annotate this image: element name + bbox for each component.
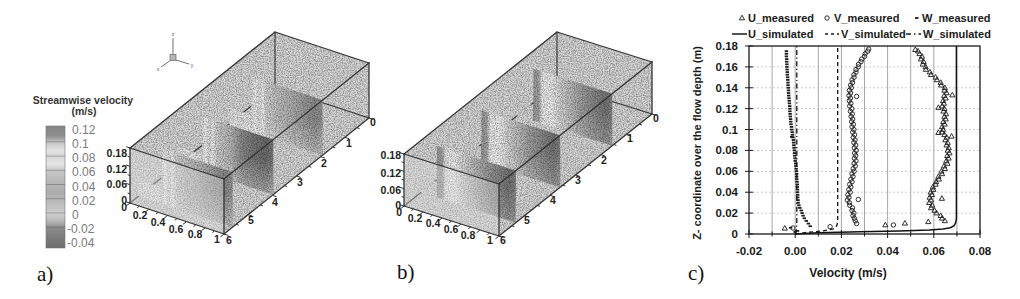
- z-tick-label: 0.06: [381, 184, 402, 196]
- data-point-circle: [854, 221, 858, 225]
- colorbar-tick-label: -0.04: [67, 236, 95, 250]
- data-point-triangle: [926, 219, 931, 224]
- legend-item-w-measured: W_measured: [915, 12, 990, 24]
- legend-label: W_simulated: [923, 28, 991, 40]
- axis-tick: [495, 236, 499, 239]
- z-axis-labels: 0.18 0.12 0.06 0: [107, 147, 128, 206]
- x-tick-label: -0.02: [736, 245, 762, 257]
- axis-tick: [588, 165, 591, 166]
- panel-a: Streamwise velocity (m/s) 0.12 0.1 0.08 …: [33, 31, 376, 286]
- triad-x-label: x: [157, 66, 160, 72]
- data-point-circle: [853, 219, 857, 223]
- y-tick-label: 4: [272, 196, 278, 208]
- y-tick-label: 3: [575, 174, 581, 186]
- scatter-w-measured: [785, 51, 812, 232]
- y-axis-title: Z- coordinate over the flow depth (m): [691, 46, 703, 240]
- chart-series: [782, 46, 956, 234]
- axis-tick: [563, 185, 566, 186]
- x-tick-label: 0.8: [188, 228, 203, 240]
- scatter-v-measured: [791, 47, 896, 230]
- y-tick-label: 0.06: [716, 165, 738, 177]
- data-point-triangle: [939, 196, 944, 201]
- legend-item-w-simulated: W_simulated: [906, 28, 991, 40]
- circle-marker-icon: [825, 16, 829, 20]
- data-point-triangle: [913, 47, 918, 52]
- x-tick-label: 0.08: [969, 245, 992, 257]
- z-tick-label: 0.18: [107, 147, 128, 159]
- x-tick-label: 1: [487, 234, 493, 246]
- axis-tick: [194, 225, 196, 227]
- y-tick-label: 0.04: [716, 186, 739, 198]
- y-tick-label: 0.12: [716, 103, 738, 115]
- colorbar-unit: (m/s): [71, 105, 96, 117]
- axis-tick: [156, 212, 158, 214]
- legend-label: U_measured: [748, 12, 814, 24]
- panel-b: 0.18 0.12 0.06 0 0 0.2 0.4 0.6 0.8 1 0 1…: [381, 32, 660, 284]
- x-tick-label: 0.4: [151, 216, 166, 228]
- x-tick-label: 1: [214, 233, 220, 245]
- axis-tick: [220, 234, 224, 237]
- line-v-simulated: [795, 46, 838, 234]
- axis-tick: [137, 206, 139, 208]
- x-tick-label: 0.6: [444, 223, 459, 235]
- data-point-circle: [891, 223, 895, 227]
- z-tick-label: 0.06: [107, 178, 128, 190]
- data-point-circle: [854, 94, 858, 98]
- box-3d-b: 0.18 0.12 0.06 0 0 0.2 0.4 0.6 0.8 1 0 1…: [381, 32, 660, 246]
- colorbar-tick-label: 0.12: [72, 123, 96, 137]
- x-tick-label: 0.4: [426, 217, 441, 229]
- colorbar: [46, 126, 65, 248]
- axis-tick: [639, 124, 642, 125]
- z-axis-labels: 0.18 0.12 0.06 0: [381, 149, 402, 211]
- data-point-circle: [828, 225, 832, 229]
- colorbar-tick-label: 0.04: [72, 180, 96, 194]
- y-tick-label: 0.14: [716, 82, 739, 94]
- triad-y-label: y: [191, 62, 194, 68]
- y-tick-label: 3: [297, 176, 303, 188]
- data-point-triangle: [883, 222, 888, 227]
- chart-gridlines: [749, 46, 980, 234]
- axis-tick: [284, 186, 287, 187]
- y-tick-label: 0: [370, 116, 376, 128]
- y-tick-label: 6: [226, 234, 232, 246]
- z-tick-label: 0.12: [107, 163, 128, 175]
- colorbar-tick-label: 0.08: [72, 151, 96, 165]
- axis-tick: [175, 219, 177, 221]
- data-point-circle: [856, 197, 860, 201]
- panel-label-a: a): [37, 262, 53, 286]
- y-tick-label: 0.16: [716, 61, 738, 73]
- data-point-triangle: [782, 226, 787, 231]
- legend-item-v-simulated: V_simulated: [825, 28, 906, 40]
- z-tick-label: 0.12: [381, 167, 402, 179]
- colorbar-tick-label: 0: [72, 208, 79, 222]
- axis-tick: [260, 205, 263, 206]
- axis-tick: [512, 226, 515, 227]
- triangle-marker-icon: [739, 15, 744, 20]
- legend-item-u-measured: U_measured: [739, 12, 814, 24]
- y-tick-label: 2: [321, 157, 327, 169]
- triad-z-label: z: [172, 31, 175, 37]
- axis-tick: [614, 145, 617, 146]
- axis-tick: [236, 224, 239, 225]
- axis-tick: [357, 128, 360, 129]
- panel-label-b: b): [397, 260, 415, 284]
- x-tick-label: 0.8: [461, 229, 476, 241]
- colorbar-tick-label: 0.02: [72, 194, 96, 208]
- y-tick-label: 4: [550, 194, 556, 206]
- x-tick-label: 0.04: [876, 245, 899, 257]
- data-point-triangle: [950, 92, 955, 97]
- legend-item-u-simulated: U_simulated: [732, 28, 813, 40]
- y-tick-label: 0.18: [716, 40, 739, 52]
- x-tick-label: 0.6: [169, 223, 184, 235]
- x-tick-label: 0.00: [784, 245, 806, 257]
- colorbar-tick-label: 0.06: [72, 165, 96, 179]
- panel-label-c: c): [688, 261, 704, 285]
- y-tick-label: 1: [627, 132, 633, 144]
- y-tick-label: 0: [653, 112, 659, 124]
- chart-legend: U_measured V_measured W_measured U_simul…: [732, 12, 991, 40]
- y-tick-label: 0: [732, 228, 738, 240]
- y-tick-label: 0.1: [722, 124, 739, 136]
- x-axis-title: Velocity (m/s): [809, 266, 886, 280]
- colorbar-tick-label: 0.1: [72, 137, 89, 151]
- axis-tick: [537, 206, 540, 207]
